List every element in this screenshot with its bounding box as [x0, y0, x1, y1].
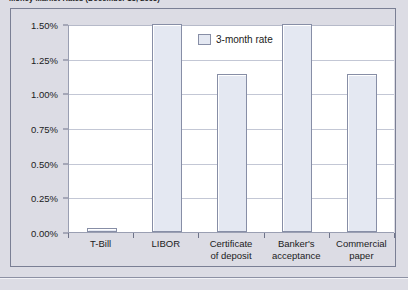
- bar-slot: [69, 25, 134, 232]
- bar-slot: [264, 25, 329, 232]
- bar[interactable]: [87, 228, 117, 232]
- x-axis-labels: T-BillLIBORCertificateof depositBanker's…: [68, 238, 394, 261]
- chart-frame: 0.00%0.25%0.50%0.75%1.00%1.25%1.50% 3-mo…: [10, 8, 396, 267]
- x-axis-label: T-Bill: [68, 238, 133, 261]
- y-tick-label: 1.25%: [31, 54, 58, 65]
- x-axis-label-line: T-Bill: [68, 238, 133, 250]
- bar-slot: [134, 25, 199, 232]
- plot-area: 3-month rate: [68, 25, 394, 233]
- x-axis-label: Certificateof deposit: [198, 238, 263, 261]
- bar-slot: [329, 25, 394, 232]
- y-tick-label: 0.00%: [31, 228, 58, 239]
- y-tick-label: 1.00%: [31, 89, 58, 100]
- figure-title: Money Market Rates (December 15, 2005): [9, 0, 160, 3]
- x-axis-label: LIBOR: [133, 238, 198, 261]
- x-axis-label: Commercialpaper: [329, 238, 394, 261]
- legend-label: 3-month rate: [216, 34, 273, 45]
- x-axis-label-line: Banker's: [264, 238, 329, 250]
- footer-divider: [0, 277, 408, 279]
- legend: 3-month rate: [196, 33, 275, 46]
- x-tick-mark: [394, 233, 395, 238]
- bar[interactable]: [217, 74, 247, 232]
- bar[interactable]: [282, 24, 312, 232]
- bar-series-3-month-rate: [69, 25, 394, 232]
- legend-swatch-3-month-rate: [198, 34, 211, 45]
- y-tick-label: 1.50%: [31, 20, 58, 31]
- x-axis-label-line: LIBOR: [133, 238, 198, 250]
- x-axis-label-line: of deposit: [198, 250, 263, 262]
- bar-slot: [199, 25, 264, 232]
- bar[interactable]: [347, 74, 377, 232]
- x-axis-label-line: Certificate: [198, 238, 263, 250]
- y-tick-label: 0.75%: [31, 124, 58, 135]
- x-axis-label: Banker'sacceptance: [264, 238, 329, 261]
- x-axis-label-line: Commercial: [329, 238, 394, 250]
- x-axis-label-line: acceptance: [264, 250, 329, 262]
- y-tick-label: 0.25%: [31, 193, 58, 204]
- y-axis: 0.00%0.25%0.50%0.75%1.00%1.25%1.50%: [11, 9, 68, 266]
- bar[interactable]: [152, 24, 182, 232]
- y-tick-label: 0.50%: [31, 158, 58, 169]
- x-axis-label-line: paper: [329, 250, 394, 262]
